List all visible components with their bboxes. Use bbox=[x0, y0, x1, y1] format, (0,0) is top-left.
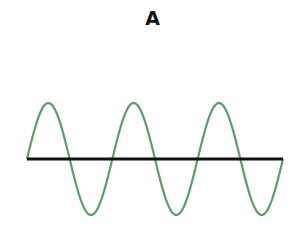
sine-wave-diagram bbox=[0, 0, 305, 252]
